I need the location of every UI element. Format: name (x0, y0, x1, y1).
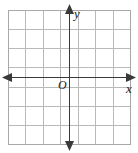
x-axis-label: x (126, 82, 132, 95)
coordinate-grid-graphic (0, 0, 138, 153)
y-axis-label: y (74, 7, 80, 20)
coordinate-plane-figure: y x O (0, 0, 138, 153)
origin-label: O (58, 79, 67, 91)
